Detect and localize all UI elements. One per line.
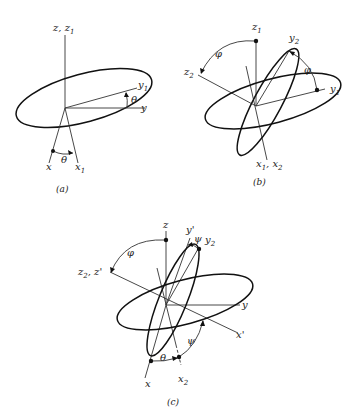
point-marker [149,359,153,363]
point-marker [315,88,319,92]
label-y2: y2 [288,32,300,46]
point-marker [164,238,168,242]
x-axis [145,305,166,378]
arrowhead-icon [124,92,129,97]
arrowhead-icon [200,68,205,74]
label-z2: z2 [183,66,194,80]
arrowhead-icon [289,51,295,56]
label-yprime: y' [185,224,194,235]
label-x1-x2: x1, x2 [256,158,283,172]
y1-axis [65,88,137,108]
phi-arc-right [289,51,317,90]
point-marker [177,355,181,359]
panel-a: z, z1 y1 y θ x θ x1 (a) [10,22,158,194]
y1-axis [256,89,325,106]
label-x2: x2 [178,373,189,387]
phi-arc [111,240,165,272]
label-y1: y1 [137,79,148,93]
disk-ellipse-horizontal [200,62,347,141]
caption-b: (b) [253,177,266,187]
label-phi-right: φ [304,64,311,75]
label-x: x [46,161,52,172]
label-y2: y2 [204,234,216,248]
z2-axis [198,75,256,106]
label-z: z [162,219,169,230]
label-theta-bottom: θ [61,154,67,165]
point-marker [197,247,201,251]
point-marker [254,39,258,43]
label-psi-bottom: ψ [187,335,195,346]
point-marker [51,149,55,153]
panel-c: z y' ψ y2 φ z2, z' y x' ψ θ x x2 (c) [77,219,258,407]
label-y: y [241,299,248,310]
label-x: x [145,378,151,389]
label-z1: z1 [251,21,262,35]
caption-c: (c) [167,397,180,407]
disk-ellipse-tilted [227,42,308,161]
label-theta: θ [160,352,166,363]
label-phi: φ [127,247,134,258]
label-y: y [140,102,147,113]
label-theta-right: θ [131,94,137,105]
panel-b: z1 z2 y2 y1 φ φ x1, x2 (b) [183,21,346,187]
label-z2-zprime: z2, z' [77,266,102,280]
disk-ellipse-tilted [138,239,209,361]
label-psi-top: ψ [194,233,202,244]
label-z-z1: z, z1 [52,22,74,36]
label-phi-left: φ [215,48,222,59]
label-xprime: x' [236,329,244,340]
euler-angles-figure: z, z1 y1 y θ x θ x1 (a) z1 z2 y2 y1 [0,0,356,411]
caption-a: (a) [56,184,69,194]
label-x1: x1 [75,161,85,175]
